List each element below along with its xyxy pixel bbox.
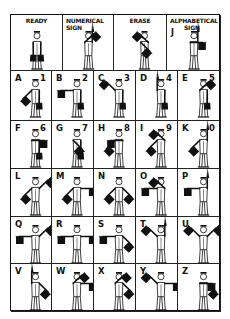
flag-icon [119,103,126,110]
signal-number: 9 [166,123,172,133]
signal-letter: Q [15,219,22,229]
flag-icon [123,242,134,253]
signal-number: 5 [209,73,215,83]
flag-icon [20,194,31,205]
flag-icon [20,96,31,107]
signal-letter: N [98,171,105,181]
flag-icon [123,289,134,300]
flag-icon [123,194,134,205]
flag-icon [204,103,211,110]
signal-letter: D [140,73,147,83]
signal-cell-n: N [94,169,136,217]
signaler-figure [104,129,125,167]
signal-number: 0 [209,123,215,133]
flag-icon [161,103,168,110]
signaler-figure [20,177,52,215]
signaler-figure [188,121,209,167]
flag-icon [207,169,209,178]
signal-cell-g: G7 [52,121,94,169]
signal-cell-b: B2 [52,71,94,121]
signal-cell-p: P [178,169,221,217]
semaphore-chart: READYNUMERICALSIGNERASEALPHABETICALSIGNJ… [10,14,220,311]
signal-cell-m: M [52,169,94,217]
flag-icon [79,272,90,283]
flag-icon [58,236,66,244]
signaler-figure [83,21,102,69]
flag-icon [58,90,66,98]
signaler-figure [146,129,167,167]
signal-letter: K [182,123,189,133]
flag-icon [32,264,34,273]
signal-cell-f: F6 [11,121,52,169]
signal-cell-y: Y [136,264,178,312]
signal-cell-q: Q [11,217,52,264]
signal-cell-z: Z [178,264,221,312]
signaler-figure [113,272,134,310]
flag-icon [188,146,199,157]
signal-number: 2 [82,73,88,83]
signal-cell-e: E5 [178,71,221,121]
flag-icon [77,103,84,110]
header-cell-numerical: NUMERICALSIGN [63,15,114,71]
flag-icon [198,21,200,32]
signaler-figure [198,272,219,310]
signal-cell-l: L [11,169,52,217]
signal-cell-s: S [94,217,136,264]
header-cell-alphabetical: ALPHABETICALSIGNJ [167,15,221,71]
signaler-figure [57,79,84,117]
signal-letter: P [182,171,188,181]
signaler-figure [16,225,52,263]
signaler-figure [99,225,134,263]
flag-icon [121,272,132,283]
flag-icon [16,236,24,244]
signal-letter: M [56,171,64,181]
signaler-figure [141,272,178,310]
flag-icon [132,31,143,42]
flag-icon [77,153,84,160]
signal-letter: V [15,266,22,276]
signal-cell-o: O [136,169,178,217]
flag-icon [37,55,44,62]
signaler-figure [57,225,94,263]
signaler-figure [183,225,221,263]
signal-cell-t: T [136,217,178,264]
header-cell-erase: ERASE [114,15,167,71]
signal-letter: G [56,123,63,133]
signal-number: 8 [124,123,130,133]
signal-letter: Y [140,266,146,276]
signal-letter: E [182,73,188,83]
signal-letter: B [56,73,62,83]
signal-cell-i: I9 [136,121,178,169]
signal-cell-w: W [52,264,94,312]
signal-letter: R [56,219,63,229]
signal-letter: S [98,219,104,229]
signaler-figure [71,129,85,167]
signal-cell-u: U [178,217,221,264]
flag-icon [184,188,192,196]
signal-letter: X [98,266,105,276]
flag-icon [198,42,206,50]
flag-icon [40,289,51,300]
flag-icon [107,140,115,148]
signal-letter: F [15,123,21,133]
signal-cell-d: D4 [136,71,178,121]
signaler-figure [30,31,44,69]
signal-letter: C [98,73,104,83]
signaler-figure [104,177,135,215]
signal-number: 3 [124,73,130,83]
flag-icon [148,177,159,188]
flag-icon [157,71,159,80]
flag-icon [100,236,108,244]
flag-icon [213,225,221,236]
signaler-figure [198,79,217,117]
flag-icon [142,188,150,196]
signal-number: 6 [40,123,46,133]
signal-letter: O [140,171,147,181]
signaler-figure [62,177,94,215]
signal-cell-k: K0 [178,121,221,169]
signaler-figure [71,272,94,310]
signaler-figure [99,79,127,117]
flag-icon [36,103,43,110]
signal-letter: A [15,73,22,83]
header-cell-ready: READY [11,15,63,71]
